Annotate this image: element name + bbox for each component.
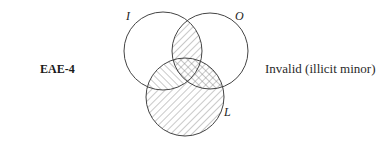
verdict-text: Invalid (illicit minor): [265, 61, 375, 77]
set-label-l: L: [223, 105, 231, 119]
set-label-o: O: [235, 9, 244, 23]
